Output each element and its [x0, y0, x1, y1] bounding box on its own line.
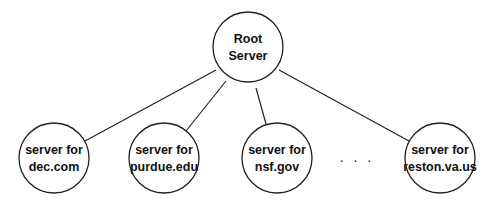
edge-root-to-purdue [186, 81, 226, 131]
server-node-purdue: server forpurdue.edu [129, 123, 199, 193]
server-node-nsf-circle [242, 123, 312, 193]
server-node-dec: server fordec.com [19, 123, 89, 193]
server-node-dec-circle [19, 123, 89, 193]
server-node-reston-label-line: reston.va.us [403, 160, 477, 174]
server-node-dec-label-line: server for [25, 143, 83, 157]
server-node-purdue-label-line: server for [135, 143, 193, 157]
server-node-purdue-label-line: purdue.edu [130, 160, 198, 174]
root-server-node-label-line: Server [229, 49, 268, 63]
nodes: RootServerserver fordec.comserver forpur… [19, 12, 477, 193]
server-node-nsf: server fornsf.gov [242, 123, 312, 193]
root-server-node: RootServer [213, 12, 283, 82]
server-node-reston-circle [405, 123, 475, 193]
server-node-purdue-circle [129, 123, 199, 193]
root-server-node-circle [213, 12, 283, 82]
edge-root-to-nsf [256, 88, 266, 124]
ellipsis-more-servers: . . . [340, 149, 374, 165]
dns-tree-diagram: RootServerserver fordec.comserver forpur… [0, 0, 492, 208]
root-server-node-label-line: Root [234, 32, 263, 46]
server-node-reston-label-line: server for [411, 143, 469, 157]
server-node-nsf-label-line: nsf.gov [255, 160, 299, 174]
server-node-reston: server forreston.va.us [403, 123, 477, 193]
server-node-nsf-label-line: server for [248, 143, 306, 157]
server-node-dec-label-line: dec.com [29, 160, 80, 174]
